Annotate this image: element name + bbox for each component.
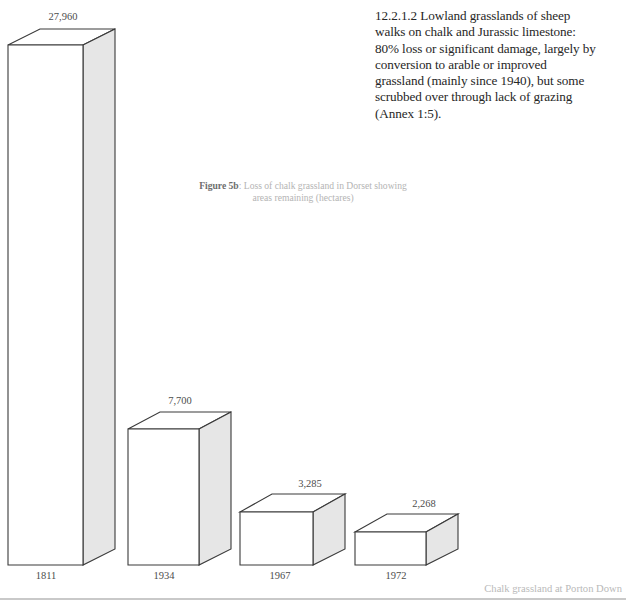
bar-side-face-1934 <box>199 412 231 565</box>
figure-caption-line1: Loss of chalk grassland in Dorset showin… <box>244 180 407 191</box>
bar-group-1934: 7,700 1934 <box>128 395 231 581</box>
figure-caption: Figure 5b: Loss of chalk grassland in Do… <box>158 180 448 204</box>
body-line-5: grassland (mainly since 1940), but some <box>375 73 623 89</box>
footer-divider <box>0 598 626 600</box>
body-paragraph: 12.2.1.2 Lowland grasslands of sheep wal… <box>375 8 623 122</box>
body-line-4: conversion to arable or improved <box>375 57 623 73</box>
bar-group-1967: 3,285 1967 <box>240 478 345 581</box>
body-line-2: walks on chalk and Jurassic limestone: <box>375 24 623 40</box>
body-line-7: (Annex 1:5). <box>375 106 623 122</box>
bar-front-face-1972 <box>355 532 426 565</box>
bar-group-1972: 2,268 1972 <box>355 498 458 581</box>
bar-group-1811: 27,960 1811 <box>8 11 115 581</box>
bar-front-face-1967 <box>240 512 313 565</box>
figure-caption-line2: areas remaining (hectares) <box>158 192 448 204</box>
bar-value-label-1972: 2,268 <box>412 498 436 509</box>
bar-category-label-1811: 1811 <box>36 570 57 581</box>
figure-page: 27,960 1811 7,700 1934 3,285 1967 2,268 … <box>0 0 626 608</box>
bar-category-label-1967: 1967 <box>270 570 291 581</box>
bar-value-label-1934: 7,700 <box>168 395 192 406</box>
photo-credit: Chalk grassland at Porton Down <box>484 583 622 594</box>
bar-front-face-1934 <box>128 429 199 565</box>
body-line-6: scrubbed over through lack of grazing <box>375 89 623 105</box>
bar-value-label-1811: 27,960 <box>49 11 78 22</box>
bar-category-label-1934: 1934 <box>154 570 176 581</box>
body-line-1: 12.2.1.2 Lowland grasslands of sheep <box>375 8 623 24</box>
bar-side-face-1811 <box>83 29 115 565</box>
bar-front-face-1811 <box>8 45 83 565</box>
bar-value-label-1967: 3,285 <box>298 478 322 489</box>
bar-category-label-1972: 1972 <box>386 570 407 581</box>
figure-caption-label: Figure 5b <box>199 180 239 191</box>
body-line-3: 80% loss or significant damage, largely … <box>375 41 623 57</box>
